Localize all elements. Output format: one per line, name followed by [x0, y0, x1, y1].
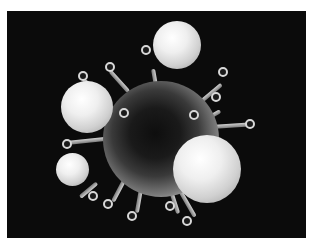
spike-tip — [211, 92, 221, 102]
spike-tip — [127, 211, 137, 221]
spike-tip — [218, 67, 228, 77]
spike-tip — [141, 45, 151, 55]
white-cell — [173, 135, 241, 203]
virus-illustration — [7, 11, 306, 238]
spike-tip — [62, 139, 72, 149]
spike — [67, 137, 107, 145]
spike-tip — [88, 191, 98, 201]
spike-tip — [245, 119, 255, 129]
spike-tip — [165, 201, 175, 211]
spike-tip — [78, 71, 88, 81]
spike-tip — [119, 108, 129, 118]
spike-tip — [105, 62, 115, 72]
white-cell — [153, 21, 201, 69]
spike-tip — [189, 110, 199, 120]
spike-tip — [182, 216, 192, 226]
white-cell — [61, 81, 113, 133]
spike-tip — [103, 199, 113, 209]
white-cell — [56, 153, 89, 186]
spike — [109, 70, 131, 93]
